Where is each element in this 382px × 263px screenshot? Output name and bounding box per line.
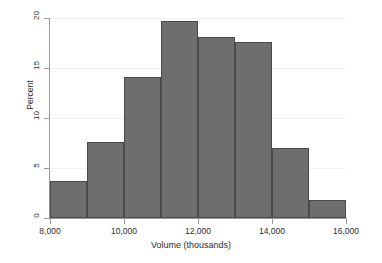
x-tick-label: 16,000 <box>333 226 359 236</box>
x-tick-mark <box>346 219 347 224</box>
histogram-bar <box>124 77 161 218</box>
x-tick-label: 12,000 <box>185 226 211 236</box>
x-tick-label: 8,000 <box>39 226 60 236</box>
y-tick-mark <box>44 118 49 119</box>
histogram-figure: 05101520 8,00010,00012,00014,00016,000 P… <box>0 0 382 263</box>
histogram-bar <box>87 142 124 218</box>
y-tick-label: 0 <box>30 211 42 220</box>
histogram-bar <box>50 181 87 218</box>
histogram-bar <box>198 37 235 218</box>
y-tick-mark <box>44 18 49 19</box>
x-tick-mark <box>272 219 273 224</box>
y-tick-mark <box>44 168 49 169</box>
y-tick-mark <box>44 218 49 219</box>
gridline <box>50 18 346 19</box>
plot-area <box>50 18 346 218</box>
histogram-bar <box>309 200 346 218</box>
x-tick-mark <box>50 219 51 224</box>
y-axis-title: Percent <box>25 65 35 125</box>
x-tick-label: 14,000 <box>259 226 285 236</box>
y-tick-label: 20 <box>30 11 42 20</box>
y-tick-mark <box>44 68 49 69</box>
x-tick-label: 10,000 <box>111 226 137 236</box>
x-axis-title: Volume (thousands) <box>0 240 382 250</box>
x-tick-mark <box>124 219 125 224</box>
histogram-bar <box>235 42 272 218</box>
y-axis-line <box>49 18 50 219</box>
histogram-bar <box>272 148 309 218</box>
y-tick-label: 5 <box>30 161 42 170</box>
histogram-bar <box>161 21 198 218</box>
x-tick-mark <box>198 219 199 224</box>
